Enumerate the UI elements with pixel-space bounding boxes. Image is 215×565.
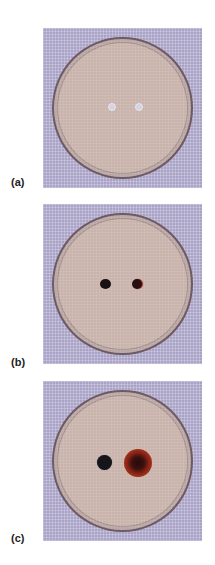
panel-a-image (43, 28, 202, 188)
well-c-left-dark (97, 455, 112, 470)
petri-dish-c (52, 390, 193, 532)
panel-c-label: (c) (11, 532, 24, 544)
petri-dish-a (52, 37, 193, 179)
panel-b-image (43, 204, 202, 364)
petri-dish-b (52, 213, 193, 355)
panel-a-label: (a) (11, 176, 24, 188)
well-b-left-dark (100, 279, 111, 289)
well-a-left (108, 103, 116, 111)
panel-c-image (43, 381, 202, 541)
panel-b-label: (b) (11, 356, 25, 368)
well-b-right-dark (132, 279, 142, 289)
well-a-right (135, 103, 143, 111)
well-c-right-halo (124, 449, 152, 477)
